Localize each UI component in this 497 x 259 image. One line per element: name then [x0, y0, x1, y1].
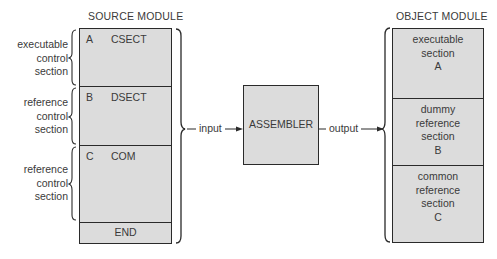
section-line: reference [393, 184, 483, 198]
side-label-line: control [2, 110, 68, 124]
section-line: A [393, 60, 483, 74]
source-section-end: END [80, 223, 171, 242]
side-label-reference-control-section-c: reference control section [2, 163, 68, 204]
section-line: reference [393, 117, 483, 131]
output-label: output [326, 122, 361, 134]
section-letter: A [86, 33, 93, 45]
source-section-c: C COM [80, 146, 171, 223]
brace-reference-control-section-b [69, 88, 76, 144]
side-label-line: reference [2, 163, 68, 177]
object-section-dummy-reference: dummy reference section B [393, 99, 483, 166]
source-section-b: B DSECT [80, 87, 171, 146]
brace-object-module [382, 28, 390, 242]
section-line: section [393, 47, 483, 61]
section-line: C [393, 211, 483, 225]
brace-source-module [176, 29, 185, 243]
section-line: section [393, 197, 483, 211]
source-module-title: SOURCE MODULE [88, 10, 183, 22]
input-arrow-head [236, 127, 243, 132]
section-line: B [393, 144, 483, 158]
side-label-reference-control-section-b: reference control section [2, 96, 68, 137]
assembler-box: ASSEMBLER [243, 85, 319, 165]
side-label-line: reference [2, 96, 68, 110]
object-section-common-reference: common reference section C [393, 166, 483, 241]
side-label-line: control [2, 52, 68, 66]
section-line: common [393, 170, 483, 184]
side-label-executable-control-section: executable control section [2, 38, 68, 79]
section-letter: B [86, 91, 93, 103]
section-text: common reference section C [393, 170, 483, 224]
object-module-box: executable section A dummy reference sec… [392, 28, 484, 243]
section-text: executable section A [393, 33, 483, 74]
object-section-executable: executable section A [393, 29, 483, 99]
side-label-line: control [2, 177, 68, 191]
source-module-box: A CSECT B DSECT C COM END [79, 28, 172, 244]
section-line: section [393, 130, 483, 144]
input-label: input [196, 122, 225, 134]
object-module-title: OBJECT MODULE [396, 10, 488, 22]
side-label-line: executable [2, 38, 68, 52]
section-line: dummy [393, 103, 483, 117]
brace-executable-control-section [69, 30, 76, 85]
section-name: DSECT [111, 91, 147, 103]
assembler-label: ASSEMBLER [244, 118, 318, 130]
brace-reference-control-section-c [69, 147, 76, 220]
section-name: CSECT [111, 33, 147, 45]
side-label-line: section [2, 190, 68, 204]
section-line: executable [393, 33, 483, 47]
section-name: COM [111, 150, 136, 162]
section-name: END [80, 226, 171, 238]
section-letter: C [86, 150, 94, 162]
side-label-line: section [2, 123, 68, 137]
section-text: dummy reference section B [393, 103, 483, 157]
source-section-a: A CSECT [80, 29, 171, 87]
side-label-line: section [2, 65, 68, 79]
